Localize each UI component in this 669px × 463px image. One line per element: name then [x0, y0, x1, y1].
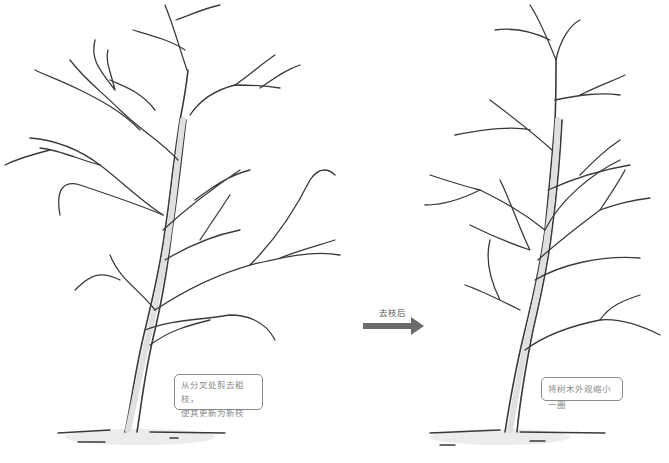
arrow-label: 去枝后 — [379, 306, 406, 318]
caption-before-line2: 使其更新为新枝 — [181, 406, 256, 420]
arrow-icon — [363, 317, 424, 335]
caption-after: 将树木外观缩小一圈 — [541, 377, 623, 401]
caption-before: 从分叉处剪去粗枝， 使其更新为新枝 — [174, 374, 263, 410]
tree-before-pruning — [5, 5, 340, 445]
caption-before-line1: 从分叉处剪去粗枝， — [181, 378, 256, 406]
